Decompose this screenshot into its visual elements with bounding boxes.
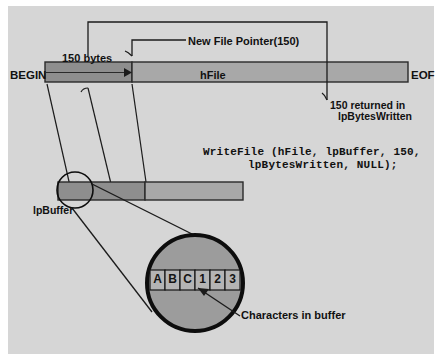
bytes-written-label: 150 bytes [62,52,112,64]
code-line-1: WriteFile (hFile, lpBuffer, 150, [203,146,421,158]
hfile-label: hFile [200,69,226,81]
buffer-cell-char: B [165,272,180,286]
buffer-cell-char: 1 [195,272,210,286]
buffer-bar-used [58,182,145,200]
bytes-returned-label-line2: lpBytesWritten [338,111,412,123]
figure-canvas: BEGIN EOF 150 bytes hFile New File Point… [0,0,442,361]
new-file-pointer-label: New File Pointer(150) [188,35,299,47]
new-file-pointer-leader [132,40,186,56]
leader-150bytes-hook [81,88,88,92]
buffer-cell-char: C [180,272,195,286]
begin-label: BEGIN [10,69,46,82]
leader-pointer-to-buffer [132,84,146,182]
code-line-2: lpBytesWritten, NULL); [248,159,398,171]
buffer-cell-char: 2 [210,272,225,286]
eof-label: EOF [411,69,435,82]
buffer-cell-char: A [150,272,165,286]
buffer-bar-free [145,182,243,200]
hfile-bar-remaining [132,62,408,82]
magnifier-connector-lower [72,208,152,312]
characters-in-buffer-label: Characters in buffer [241,309,346,321]
leader-begin-to-buffer [47,84,70,186]
lpbuffer-label: lpBuffer [33,205,73,217]
leader-150bytes-to-buffer [88,88,112,188]
new-file-pointer-hook [125,51,132,56]
returned-bracket [88,22,327,100]
buffer-cell-char: 3 [225,272,240,286]
returned-bracket-hook [322,93,327,100]
